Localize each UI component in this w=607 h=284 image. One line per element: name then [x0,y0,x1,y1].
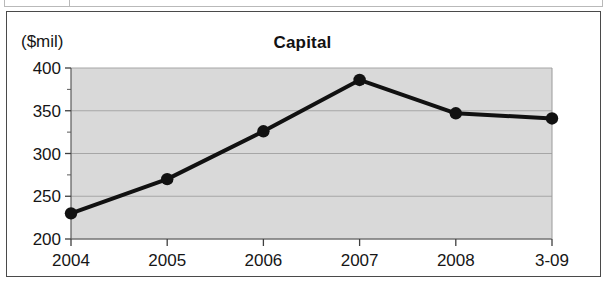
y-axis-tick-label: 350 [33,102,61,121]
line-chart-svg: 200250300350400200420052006200720083-09 [7,12,602,278]
data-point-marker [450,107,462,119]
data-point-marker [65,207,77,219]
cut-off-box-above [4,0,603,7]
data-point-marker [161,173,173,185]
x-axis-tick-label: 2004 [52,251,90,270]
data-point-marker [546,112,558,124]
cut-off-box-divider [69,0,70,7]
x-axis-tick-label: 2005 [148,251,186,270]
x-axis-tick-label: 2008 [437,251,475,270]
chart-figure-frame: ($mil) Capital 2002503003504002004200520… [6,11,601,277]
y-axis-tick-label: 300 [33,145,61,164]
x-axis-tick-label: 3-09 [535,251,569,270]
chart-page: ($mil) Capital 2002503003504002004200520… [0,0,607,284]
y-axis-tick-label: 200 [33,230,61,249]
y-axis-tick-label: 400 [33,59,61,78]
y-axis-tick-label: 250 [33,187,61,206]
x-axis-tick-label: 2006 [244,251,282,270]
data-point-marker [353,74,365,86]
plot-area-wrapper: 200250300350400200420052006200720083-09 [7,12,602,278]
x-axis-tick-label: 2007 [341,251,379,270]
data-point-marker [257,125,269,137]
